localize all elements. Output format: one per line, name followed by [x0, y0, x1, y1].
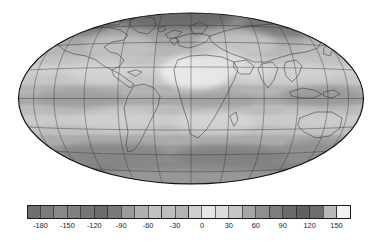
- colorbar: -180-150-120-90-60-300306090120150: [0, 192, 383, 248]
- figure-root: -180-150-120-90-60-300306090120150: [0, 0, 383, 248]
- colorbar-cell: [242, 205, 256, 218]
- map-panel: [0, 0, 383, 192]
- colorbar-tick-label: -180: [33, 221, 48, 230]
- colorbar-tick-label: 60: [252, 221, 260, 230]
- colorbar-cell: [175, 205, 189, 218]
- colorbar-cell: [269, 205, 283, 218]
- colorbar-cell: [229, 205, 243, 218]
- colorbar-cell: [296, 205, 310, 218]
- colorbar-tick-label: 30: [225, 221, 233, 230]
- colorbar-tick-label: -30: [170, 221, 181, 230]
- colorbar-cell: [189, 205, 203, 218]
- colorbar-tick-label: 0: [200, 221, 204, 230]
- colorbar-cell: [94, 205, 108, 218]
- colorbar-cell: [337, 205, 351, 218]
- colorbar-tick-label: -120: [87, 221, 102, 230]
- colorbar-tick-label: 120: [303, 221, 315, 230]
- colorbar-cell: [27, 205, 41, 218]
- colorbar-cell: [121, 205, 135, 218]
- colorbar-cell: [215, 205, 229, 218]
- colorbar-cell: [310, 205, 324, 218]
- world-map: [0, 0, 383, 192]
- colorbar-cell: [135, 205, 149, 218]
- colorbar-cell: [40, 205, 54, 218]
- colorbar-tick-label: 90: [279, 221, 287, 230]
- colorbar-cell: [202, 205, 216, 218]
- colorbar-cell: [256, 205, 270, 218]
- colorbar-cell: [148, 205, 162, 218]
- colorbar-tick-label: 150: [330, 221, 342, 230]
- colorbar-cell: [108, 205, 122, 218]
- colorbar-panel: -180-150-120-90-60-300306090120150: [0, 192, 383, 248]
- colorbar-cell: [323, 205, 337, 218]
- colorbar-cell: [81, 205, 95, 218]
- colorbar-cell: [54, 205, 68, 218]
- colorbar-tick-label: -60: [143, 221, 154, 230]
- colorbar-tick-label: -150: [60, 221, 75, 230]
- colorbar-cell: [283, 205, 297, 218]
- colorbar-tick-label: -90: [116, 221, 127, 230]
- colorbar-cell: [67, 205, 81, 218]
- colorbar-background: [0, 192, 383, 248]
- colorbar-cells: [27, 205, 350, 218]
- colorbar-cell: [162, 205, 176, 218]
